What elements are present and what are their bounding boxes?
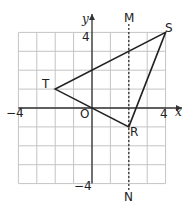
- label-m: M: [124, 11, 134, 25]
- x-axis-label: x: [175, 105, 182, 119]
- x-tick-neg4: −4: [6, 106, 24, 120]
- axes: [18, 14, 182, 184]
- vertex-label-t: T: [41, 77, 50, 91]
- x-tick-4: 4: [160, 107, 168, 121]
- y-tick-4: 4: [82, 30, 90, 44]
- coordinate-diagram: y x O −4 4 4 −4 M N S T R: [0, 0, 194, 206]
- y-axis-label: y: [81, 12, 89, 26]
- vertex-label-r: R: [130, 125, 138, 139]
- y-tick-neg4: −4: [74, 179, 92, 193]
- label-n: N: [124, 190, 133, 204]
- origin-label: O: [80, 107, 89, 121]
- vertex-label-s: S: [165, 21, 173, 35]
- y-arrow-icon: [89, 14, 95, 20]
